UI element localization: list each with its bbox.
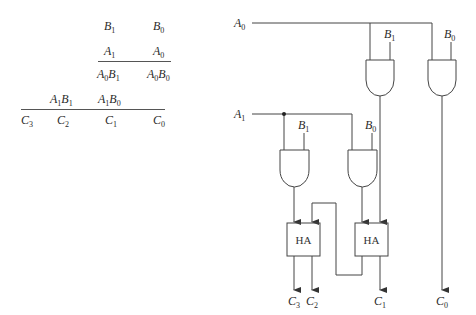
label-g3-b1: B1: [298, 119, 309, 136]
half-adder-1-label: HA: [296, 234, 312, 246]
and-gate-a0b1: [366, 60, 394, 96]
and-gate-a0b0: [428, 60, 456, 96]
half-adder-2-label: HA: [364, 234, 380, 246]
label-a0: A0: [234, 17, 245, 34]
and-gate-a1b0: [348, 150, 377, 187]
label-g2-b0: B0: [444, 28, 455, 45]
circuit-diagram: HA HA: [0, 0, 476, 315]
label-g1-b1: B1: [384, 28, 395, 45]
label-g4-b0: B0: [365, 119, 376, 136]
junction-dot: [282, 112, 286, 116]
label-a1: A1: [234, 108, 245, 125]
and-gate-a1b1: [280, 150, 309, 187]
label-c0: C0: [436, 295, 448, 312]
label-c2: C2: [306, 295, 318, 312]
label-c3: C3: [288, 295, 300, 312]
label-c1: C1: [374, 295, 386, 312]
